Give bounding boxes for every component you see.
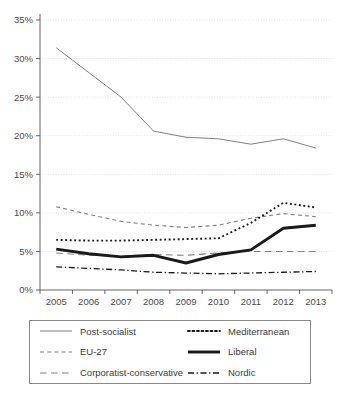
legend-swatch-solid-thick	[187, 347, 221, 357]
legend-item-liberal: Liberal	[178, 347, 312, 357]
y-tick-label: 10%	[14, 207, 34, 218]
chart-legend: Post-socialist Mediterranean EU-27 Liber…	[29, 320, 311, 384]
y-tick-labels: 0%5%10%15%20%25%30%35%	[14, 14, 34, 295]
x-tick-labels: 200520062007200820092010201120122013	[46, 296, 327, 307]
y-tick-label: 5%	[19, 246, 33, 257]
legend-item-nordic: Nordic	[178, 368, 312, 378]
plot-area: 0%5%10%15%20%25%30%35% 20052006200720082…	[0, 0, 340, 310]
gridlines	[40, 20, 332, 251]
legend-label: EU-27	[80, 347, 107, 357]
legend-swatch-solid-thin	[39, 326, 73, 336]
y-tick-label: 30%	[14, 53, 34, 64]
x-tick-label: 2013	[305, 296, 326, 307]
legend-item-corporatist-conservative: Corporatist-conservative	[30, 368, 178, 378]
x-axis	[40, 290, 332, 294]
y-tick-label: 0%	[19, 284, 33, 295]
x-tick-label: 2010	[208, 296, 229, 307]
series-line-liberal	[56, 225, 316, 263]
series-line-mediterranean	[56, 203, 316, 241]
line-chart-svg: 0%5%10%15%20%25%30%35% 20052006200720082…	[0, 0, 340, 310]
x-tick-label: 2006	[78, 296, 99, 307]
legend-label: Corporatist-conservative	[80, 368, 183, 378]
series-line-post-socialist	[56, 48, 316, 148]
series-line-eu-27	[56, 207, 316, 228]
chart-container: 0%5%10%15%20%25%30%35% 20052006200720082…	[0, 0, 340, 395]
y-tick-label: 35%	[14, 14, 34, 25]
x-tick-label: 2009	[175, 296, 196, 307]
legend-label: Post-socialist	[80, 327, 136, 337]
x-tick-label: 2007	[111, 296, 132, 307]
legend-swatch-dash-dot	[187, 368, 221, 378]
y-tick-label: 25%	[14, 92, 34, 103]
legend-item-eu-27: EU-27	[30, 347, 178, 357]
legend-swatch-dotted	[187, 326, 221, 336]
x-tick-label: 2011	[241, 296, 261, 307]
legend-item-post-socialist: Post-socialist	[30, 326, 178, 336]
legend-item-mediterranean: Mediterranean	[178, 326, 312, 336]
x-tick-label: 2005	[46, 296, 67, 307]
legend-label: Mediterranean	[228, 327, 289, 337]
series-line-nordic	[56, 267, 316, 274]
y-tick-label: 15%	[14, 169, 34, 180]
legend-label: Nordic	[228, 368, 255, 378]
legend-swatch-long-dash	[39, 368, 73, 378]
data-series-group	[56, 48, 316, 274]
x-tick-label: 2012	[273, 296, 294, 307]
legend-label: Liberal	[228, 347, 257, 357]
y-axis	[36, 14, 40, 290]
y-tick-label: 20%	[14, 130, 34, 141]
legend-swatch-short-dash	[39, 347, 73, 357]
x-tick-label: 2008	[143, 296, 164, 307]
